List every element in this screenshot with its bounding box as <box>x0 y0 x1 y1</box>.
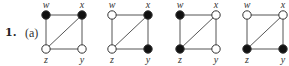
vertex-z-filled <box>243 45 251 53</box>
edge-z-x <box>247 15 283 49</box>
vertex-label-w: w <box>109 0 116 10</box>
vertex-label-y: y <box>145 54 151 65</box>
vertex-z-empty <box>108 45 116 53</box>
vertex-label-z: z <box>43 54 48 65</box>
vertex-label-z: z <box>244 54 249 65</box>
vertex-label-z: z <box>177 54 182 65</box>
vertex-x-empty <box>279 11 287 19</box>
edge-z-x <box>180 15 216 49</box>
vertex-z-filled <box>176 45 184 53</box>
vertex-w-filled <box>42 11 50 19</box>
vertex-label-y: y <box>79 54 85 65</box>
vertex-x-filled <box>78 11 86 19</box>
vertex-label-w: w <box>177 0 184 10</box>
vertex-label-y: y <box>213 54 219 65</box>
vertex-y-filled <box>279 45 287 53</box>
vertex-label-z: z <box>109 54 114 65</box>
vertex-z-empty <box>42 45 50 53</box>
edge-z-x <box>46 15 82 49</box>
vertex-w-empty <box>243 11 251 19</box>
vertex-w-filled <box>176 11 184 19</box>
graph-1: wxzy <box>42 0 86 65</box>
vertex-label-x: x <box>280 0 286 10</box>
vertex-y-empty <box>212 45 220 53</box>
vertex-label-x: x <box>213 0 219 10</box>
edge-z-x <box>112 15 148 49</box>
graph-3: wxzy <box>176 0 220 65</box>
graph-figure: wxzywxzywxzywxzy <box>0 0 289 66</box>
vertex-x-empty <box>212 11 220 19</box>
vertex-label-y: y <box>280 54 286 65</box>
vertex-label-x: x <box>79 0 85 10</box>
vertex-label-x: x <box>145 0 151 10</box>
vertex-label-w: w <box>43 0 50 10</box>
graph-4: wxzy <box>243 0 287 65</box>
vertex-label-w: w <box>244 0 251 10</box>
vertex-w-empty <box>108 11 116 19</box>
vertex-x-filled <box>144 11 152 19</box>
graph-2: wxzy <box>108 0 152 65</box>
vertex-y-empty <box>78 45 86 53</box>
vertex-y-filled <box>144 45 152 53</box>
